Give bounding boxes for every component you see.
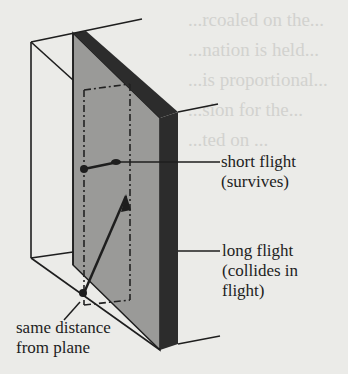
plane-face [73,33,160,350]
short-flight-label-line2: (survives) [221,172,296,192]
long-flight-label-line1: long flight [222,241,298,261]
short-flight-label: short flight (survives) [221,152,296,192]
same-distance-label-line2: from plane [16,338,111,358]
long-flight-label: long flight (collides in flight) [222,241,298,301]
long-flight-start-dot [79,289,87,297]
long-flight-label-line3: flight) [222,281,298,301]
long-flight-label-line2: (collides in [222,261,298,281]
plane-edge-right [160,112,178,350]
diagram-canvas: ...rcoaled on the... ...nation is held..… [0,0,348,374]
short-flight-start-dot [80,165,88,173]
same-distance-label: same distance from plane [16,318,111,358]
short-flight-label-line1: short flight [221,152,296,172]
same-distance-label-line1: same distance [16,318,111,338]
